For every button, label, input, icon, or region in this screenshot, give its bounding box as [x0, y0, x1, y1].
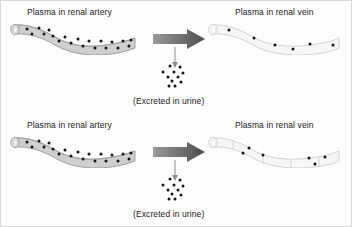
renal-artery-vessel-top: [9, 21, 139, 55]
artery-label-top: Plasma in renal artery: [27, 7, 112, 17]
excreted-solute-dots-top: [149, 63, 197, 93]
renal-artery-vessel-bottom: [9, 134, 139, 168]
artery-label-bottom: Plasma in renal artery: [27, 120, 112, 130]
excreted-in-urine-label-bottom: (Excreted in urine): [133, 209, 204, 219]
vein-label-top: Plasma in renal vein: [235, 7, 314, 17]
vein-label-bottom: Plasma in renal vein: [235, 120, 314, 130]
diagram-panel-bottom: Plasma in renal artery Plasma in renal v…: [1, 114, 352, 227]
right-block-arrow-icon-top: [153, 29, 205, 49]
renal-vein-vessel-bottom: [207, 134, 343, 168]
renal-vein-vessel-top: [207, 21, 343, 55]
excreted-solute-dots-bottom: [149, 176, 197, 206]
renal-plasma-clearance-figure: Plasma in renal artery Plasma in renal v…: [0, 0, 352, 227]
right-block-arrow-icon-bottom: [153, 142, 205, 162]
excreted-in-urine-label-top: (Excreted in urine): [133, 96, 204, 106]
diagram-panel-top: Plasma in renal artery Plasma in renal v…: [1, 1, 352, 114]
